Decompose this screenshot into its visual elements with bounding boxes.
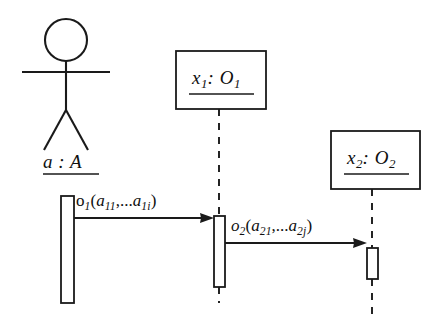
- object-x1-label: x1: O1: [192, 68, 241, 91]
- message-o1-arrow[interactable]: [74, 213, 214, 223]
- actor-leg-right-line: [66, 110, 88, 150]
- object-x2-activation-bar[interactable]: [367, 248, 378, 279]
- actor-label: a : A: [43, 152, 82, 171]
- message-o2-arrowhead-icon: [353, 238, 367, 248]
- object-x1-activation-bar[interactable]: [214, 216, 225, 287]
- message-o1-label: o1(a11,...a1i): [76, 192, 156, 212]
- actor-leg-left-line: [44, 110, 66, 150]
- object-x2-label: x2: O2: [347, 148, 396, 171]
- actor-head-icon: [45, 19, 87, 61]
- message-o1-arrowhead-icon: [200, 213, 214, 223]
- actor-activation-bar[interactable]: [61, 196, 74, 303]
- message-o2-arrow[interactable]: [225, 238, 367, 248]
- message-o2-label: o2(a21,...a2j): [231, 217, 312, 237]
